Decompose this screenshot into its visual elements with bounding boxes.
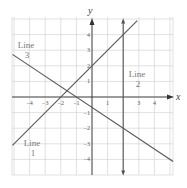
y-tick-label: −2	[84, 125, 90, 131]
x-tick-label: 4	[153, 100, 156, 106]
line1-label: Line	[24, 138, 41, 148]
y-tick-label: −1	[84, 110, 90, 116]
y-tick-label: −3	[84, 141, 90, 147]
line3-number: 3	[25, 50, 30, 60]
x-tick-label: −1	[73, 100, 79, 106]
grid	[12, 17, 173, 175]
coordinate-plane: xy−4−3−2−11344321−1−2−3−4Line3Line2Line1	[0, 0, 187, 188]
y-tick-label: 1	[87, 78, 90, 84]
y-axis-label: y	[87, 5, 93, 16]
y-tick-label: 3	[87, 47, 90, 53]
line2-number: 2	[136, 79, 141, 89]
y-tick-label: −4	[84, 156, 90, 162]
line2-label: Line	[129, 69, 146, 79]
x-tick-label: −2	[58, 100, 64, 106]
x-tick-label: 1	[106, 100, 109, 106]
x-tick-label: −4	[26, 100, 32, 106]
x-axis-label: x	[175, 91, 181, 102]
x-tick-label: 3	[137, 100, 140, 106]
line1-number: 1	[31, 148, 36, 158]
y-tick-label: 4	[87, 32, 90, 38]
x-tick-label: −3	[42, 100, 48, 106]
line3-label: Line	[18, 40, 35, 50]
